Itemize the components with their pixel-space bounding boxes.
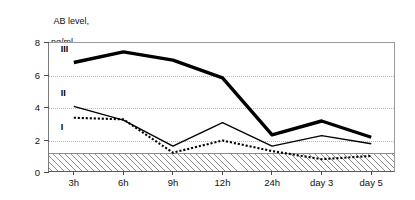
x-tick-mark bbox=[321, 171, 322, 175]
series-line-III bbox=[74, 52, 371, 137]
y-tick-mark bbox=[44, 140, 49, 141]
y-tick-mark bbox=[44, 107, 49, 108]
x-tick-mark bbox=[371, 171, 372, 175]
series-label-III: III bbox=[61, 44, 69, 54]
x-tick-mark bbox=[73, 171, 74, 175]
chart-figure: AB level, ng/ml 02468 3h6h9h12h24hday 3d… bbox=[0, 0, 415, 200]
y-tick-label: 6 bbox=[35, 69, 40, 82]
x-tick-label: 6h bbox=[118, 177, 129, 189]
x-tick-label: 9h bbox=[168, 177, 179, 189]
y-tick-mark bbox=[44, 172, 49, 173]
y-tick-label: 0 bbox=[35, 166, 40, 179]
y-tick-mark bbox=[44, 75, 49, 76]
x-tick-label: day 5 bbox=[360, 177, 383, 189]
series-layer bbox=[49, 43, 394, 171]
y-tick-label: 2 bbox=[35, 134, 40, 147]
x-tick-mark bbox=[222, 171, 223, 175]
x-tick-label: 24h bbox=[264, 177, 280, 189]
plot-area: 02468 3h6h9h12h24hday 3day 5 IIIIII bbox=[48, 42, 395, 172]
y-tick-label: 4 bbox=[35, 101, 40, 114]
series-label-I: I bbox=[61, 122, 64, 132]
x-tick-mark bbox=[172, 171, 173, 175]
x-tick-label: 3h bbox=[68, 177, 79, 189]
x-tick-mark bbox=[123, 171, 124, 175]
x-tick-label: 12h bbox=[215, 177, 231, 189]
series-label-II: II bbox=[61, 88, 66, 98]
x-tick-mark bbox=[271, 171, 272, 175]
plot-inner bbox=[49, 43, 394, 171]
y-axis-title-line1: AB level, bbox=[54, 16, 90, 26]
y-tick-label: 8 bbox=[35, 36, 40, 49]
x-tick-label: day 3 bbox=[310, 177, 333, 189]
y-tick-mark bbox=[44, 42, 49, 43]
